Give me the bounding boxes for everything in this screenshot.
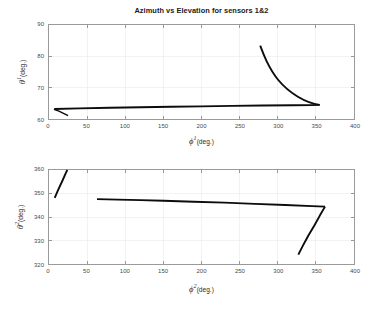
xtick-label-1-300: 300: [273, 123, 283, 129]
y-axis-label-sensor-1: θ1(deg.): [15, 60, 27, 85]
y-axis-var-2: θ: [15, 225, 25, 229]
x-axis-label-sensor-1: ϕ1(deg.): [189, 134, 214, 146]
xtick-label-1-0: 0: [46, 123, 49, 129]
data-branch-right-descend-2: [298, 207, 325, 255]
y-axis-unit-1: (deg.): [19, 60, 26, 77]
xtick-label-2-400: 400: [350, 268, 360, 274]
ytick-label-2-320: 320: [25, 262, 44, 268]
plot-svg-sensor-1: [49, 25, 354, 119]
x-axis-label-sensor-2: ϕ2(deg.): [189, 282, 214, 294]
data-branch-horizontal-1: [54, 105, 319, 109]
ytick-label-2-350: 350: [25, 190, 44, 196]
xtick-label-1-250: 250: [235, 123, 245, 129]
plot-svg-sensor-2: [49, 170, 354, 264]
plot-area-sensor-1: [48, 24, 355, 120]
plot-area-sensor-2: [48, 169, 355, 265]
ytick-label-2-330: 330: [25, 238, 44, 244]
xtick-label-2-150: 150: [158, 268, 168, 274]
xtick-label-1-350: 350: [312, 123, 322, 129]
y-axis-var-1: θ: [17, 80, 27, 84]
y-axis-sup-1: 1: [15, 77, 22, 80]
y-axis-label-sensor-2: θ2(deg.): [13, 205, 25, 230]
xtick-label-1-50: 50: [83, 123, 90, 129]
xtick-label-2-250: 250: [235, 268, 245, 274]
figure-canvas: Azimuth vs Elevation for sensors 1&2: [0, 0, 373, 309]
ytick-label-2-360: 360: [25, 166, 44, 172]
y-axis-sup-2: 2: [13, 222, 20, 225]
x-axis-unit-1: (deg.): [197, 138, 214, 145]
xtick-label-1-200: 200: [196, 123, 206, 129]
ytick-label-1-90: 90: [28, 21, 44, 27]
xtick-label-1-100: 100: [120, 123, 130, 129]
xtick-label-2-200: 200: [196, 268, 206, 274]
x-axis-unit-2: (deg.): [197, 286, 214, 293]
y-axis-unit-2: (deg.): [17, 205, 24, 222]
ytick-label-2-340: 340: [25, 214, 44, 220]
xtick-label-2-350: 350: [312, 268, 322, 274]
ytick-label-1-70: 70: [28, 85, 44, 91]
xtick-label-2-100: 100: [120, 268, 130, 274]
page-title: Azimuth vs Elevation for sensors 1&2: [48, 6, 355, 15]
data-branch-asymptotic-1: [260, 46, 319, 105]
data-branch-left-short-1: [54, 109, 68, 115]
xtick-label-2-0: 0: [46, 268, 49, 274]
ytick-label-1-60: 60: [28, 117, 44, 123]
xtick-label-2-300: 300: [273, 268, 283, 274]
xtick-label-1-400: 400: [350, 123, 360, 129]
data-branch-main-slope-2: [97, 199, 325, 207]
xtick-label-2-50: 50: [83, 268, 90, 274]
ytick-label-1-80: 80: [28, 53, 44, 59]
xtick-label-1-150: 150: [158, 123, 168, 129]
